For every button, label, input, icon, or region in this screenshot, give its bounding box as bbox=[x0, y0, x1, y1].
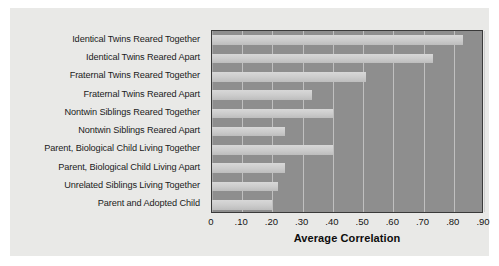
x-tick-label: .80 bbox=[446, 215, 459, 228]
category-label: Fraternal Twins Reared Together bbox=[22, 70, 200, 81]
bar bbox=[212, 127, 285, 137]
category-label: Parent and Adopted Child bbox=[22, 198, 200, 209]
bar-row bbox=[212, 200, 484, 210]
x-tick-label: .60 bbox=[386, 215, 399, 228]
gridline bbox=[484, 31, 485, 212]
category-axis-labels: Identical Twins Reared TogetherIdentical… bbox=[28, 30, 206, 213]
category-label: Fraternal Twins Reared Apart bbox=[22, 89, 200, 100]
bar-row bbox=[212, 127, 484, 137]
bar bbox=[212, 90, 312, 100]
chart-panel: Identical Twins Reared TogetherIdentical… bbox=[10, 8, 489, 256]
bar-row bbox=[212, 90, 484, 100]
chart-figure: Identical Twins Reared TogetherIdentical… bbox=[0, 0, 499, 266]
bar bbox=[212, 145, 333, 155]
bar bbox=[212, 72, 366, 82]
bar bbox=[212, 163, 285, 173]
bar bbox=[212, 200, 272, 210]
x-axis-tick-labels: 0.10.20.30.40.50.60.70.80.90 bbox=[211, 215, 483, 231]
category-label: Parent, Biological Child Living Apart bbox=[22, 162, 200, 173]
x-axis-title: Average Correlation bbox=[211, 232, 483, 244]
bar-row bbox=[212, 163, 484, 173]
bar-row bbox=[212, 182, 484, 192]
plot-area bbox=[211, 30, 483, 213]
category-label: Unrelated Siblings Living Together bbox=[22, 180, 200, 191]
x-tick-label: 0 bbox=[208, 215, 213, 228]
bar-series bbox=[212, 31, 482, 212]
category-label: Identical Twins Reared Apart bbox=[22, 52, 200, 63]
category-label: Parent, Biological Child Living Together bbox=[22, 143, 200, 154]
bar bbox=[212, 54, 433, 64]
x-tick-label: .10 bbox=[235, 215, 248, 228]
x-tick-label: .40 bbox=[325, 215, 338, 228]
bar-row bbox=[212, 54, 484, 64]
category-label: Nontwin Siblings Reared Apart bbox=[22, 125, 200, 136]
bar-row bbox=[212, 35, 484, 45]
x-tick-label: .30 bbox=[295, 215, 308, 228]
category-label: Nontwin Siblings Reared Together bbox=[22, 107, 200, 118]
bar-row bbox=[212, 145, 484, 155]
x-tick-label: .90 bbox=[476, 215, 489, 228]
x-tick-label: .70 bbox=[416, 215, 429, 228]
bar bbox=[212, 109, 333, 119]
bar bbox=[212, 35, 463, 45]
x-tick-label: .20 bbox=[265, 215, 278, 228]
bar-row bbox=[212, 109, 484, 119]
bar bbox=[212, 182, 278, 192]
category-label: Identical Twins Reared Together bbox=[22, 34, 200, 45]
bar-row bbox=[212, 72, 484, 82]
x-tick-label: .50 bbox=[356, 215, 369, 228]
